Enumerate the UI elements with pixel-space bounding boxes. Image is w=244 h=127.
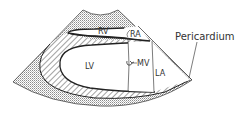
label-pericardium: Pericardium xyxy=(175,31,234,42)
echo-diagram: RV RA LV MV LA Pericardium xyxy=(0,0,244,127)
label-la: LA xyxy=(155,69,166,78)
label-mv: MV xyxy=(137,59,150,68)
label-lv: LV xyxy=(85,62,95,71)
label-ra: RA xyxy=(130,30,141,39)
label-rv: RV xyxy=(98,27,109,36)
pericardium-leader-line xyxy=(189,42,197,78)
